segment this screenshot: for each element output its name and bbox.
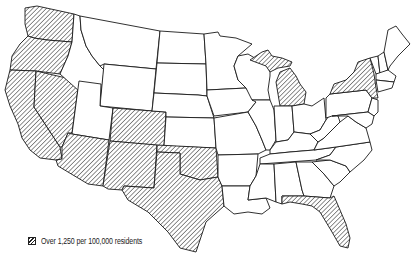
state-arkansas <box>218 154 258 186</box>
map-legend: Over 1,250 per 100,000 residents <box>28 236 164 246</box>
state-maine <box>384 26 410 70</box>
state-north-dakota <box>157 31 206 64</box>
state-washington <box>25 6 74 42</box>
state-wyoming <box>100 64 156 111</box>
state-connecticut-ri <box>376 80 394 92</box>
legend-label: Over 1,250 per 100,000 residents <box>41 236 142 246</box>
us-state-map <box>0 0 414 268</box>
state-florida <box>282 196 350 248</box>
state-new-mexico <box>103 141 157 190</box>
state-michigan-lower <box>276 68 306 106</box>
hatch-swatch-icon <box>28 237 36 245</box>
state-colorado <box>110 108 166 146</box>
state-kansas <box>164 117 216 148</box>
state-south-dakota <box>154 63 207 96</box>
